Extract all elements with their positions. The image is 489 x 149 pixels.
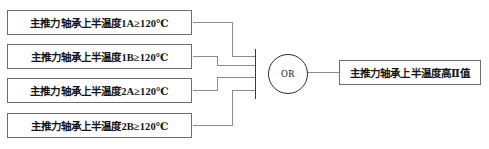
condition-label-3: 主推力轴承上半温度2A≥120℃	[30, 83, 169, 98]
or-gate-label: OR	[281, 69, 295, 79]
condition-box-3[interactable]: 主推力轴承上半温度2A≥120℃	[7, 78, 192, 103]
or-gate[interactable]: OR	[268, 54, 308, 94]
logic-diagram: 主推力轴承上半温度1A≥120℃ 主推力轴承上半温度1B≥120℃ 主推力轴承上…	[0, 0, 489, 149]
wire-input-1	[193, 23, 256, 57]
wire-input-3	[193, 78, 256, 91]
condition-label-2: 主推力轴承上半温度1B≥120℃	[31, 49, 169, 64]
wire-input-2	[193, 57, 256, 66]
condition-label-1: 主推力轴承上半温度1A≥120℃	[30, 15, 169, 30]
condition-label-4: 主推力轴承上半温度2B≥120℃	[31, 118, 169, 133]
output-box[interactable]: 主推力轴承上半温度高Ⅱ值	[339, 60, 481, 85]
output-label: 主推力轴承上半温度高Ⅱ值	[350, 65, 470, 80]
wire-input-4	[193, 91, 256, 126]
condition-box-1[interactable]: 主推力轴承上半温度1A≥120℃	[7, 10, 192, 35]
condition-box-4[interactable]: 主推力轴承上半温度2B≥120℃	[7, 113, 192, 138]
condition-box-2[interactable]: 主推力轴承上半温度1B≥120℃	[7, 44, 192, 69]
